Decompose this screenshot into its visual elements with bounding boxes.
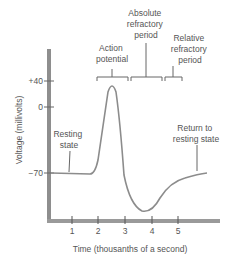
- y-tick-0: 0: [38, 102, 43, 112]
- x-tick-5: 5: [176, 226, 181, 236]
- y-tick-neg70: −70: [29, 168, 44, 178]
- annotation-action-potential: Action potential: [96, 43, 128, 64]
- x-tick-3: 3: [123, 226, 128, 236]
- annotation-return-resting: Return to resting state: [173, 123, 220, 144]
- annotation-absolute-refractory: Absolute refractory period: [127, 8, 165, 40]
- annotation-resting-state: Resting state: [53, 129, 84, 150]
- x-tick-1: 1: [70, 226, 75, 236]
- annotation-relative-refractory: Relative refractory period: [171, 33, 209, 65]
- x-tick-4: 4: [150, 226, 155, 236]
- action-potential-chart: +40 0 −70 1 2 3 4 5 Voltage (millivolts)…: [0, 0, 233, 256]
- x-axis-title: Time (thousanths of a second): [73, 244, 188, 254]
- y-axis-title: Voltage (millivolts): [14, 96, 24, 165]
- y-axis-bar: [47, 49, 51, 223]
- y-tick-40: +40: [29, 76, 44, 86]
- x-axis-bar: [47, 219, 220, 223]
- x-tick-2: 2: [96, 226, 101, 236]
